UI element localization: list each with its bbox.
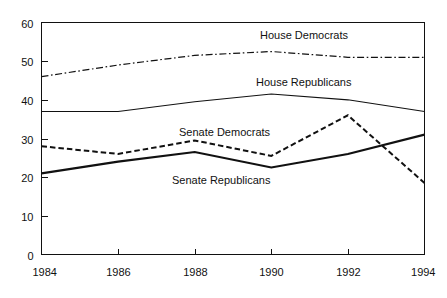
y-tick-label: 50 — [21, 56, 33, 68]
x-axis-tick-labels: 198419861988199019921994 — [33, 266, 436, 278]
x-axis-ticks — [119, 249, 349, 255]
x-tick-label: 1992 — [336, 266, 360, 278]
y-tick-label: 0 — [27, 250, 33, 262]
y-axis-ticks — [42, 62, 48, 217]
x-tick-label: 1984 — [33, 266, 57, 278]
y-tick-label: 10 — [21, 211, 33, 223]
y-tick-label: 30 — [21, 134, 33, 146]
line-chart: 0102030405060 198419861988199019921994 H… — [0, 0, 447, 298]
series-label-senate-republicans: Senate Republicans — [172, 174, 271, 186]
chart-canvas: 0102030405060 198419861988199019921994 H… — [0, 0, 447, 298]
series-line-senate-republicans — [42, 135, 425, 174]
series-line-house-democrats — [42, 52, 425, 77]
series-line-house-republicans — [42, 94, 425, 111]
y-tick-label: 60 — [21, 18, 33, 30]
x-tick-label: 1988 — [183, 266, 207, 278]
y-axis-tick-labels: 0102030405060 — [21, 18, 33, 262]
x-tick-label: 1986 — [106, 266, 130, 278]
series-label-senate-democrats: Senate Democrats — [179, 126, 271, 138]
series-lines — [42, 52, 425, 183]
x-tick-label: 1990 — [259, 266, 283, 278]
series-label-house-democrats: House Democrats — [260, 29, 349, 41]
y-tick-label: 40 — [21, 95, 33, 107]
series-label-house-republicans: House Republicans — [256, 76, 352, 88]
x-tick-label: 1994 — [411, 266, 435, 278]
y-tick-label: 20 — [21, 172, 33, 184]
